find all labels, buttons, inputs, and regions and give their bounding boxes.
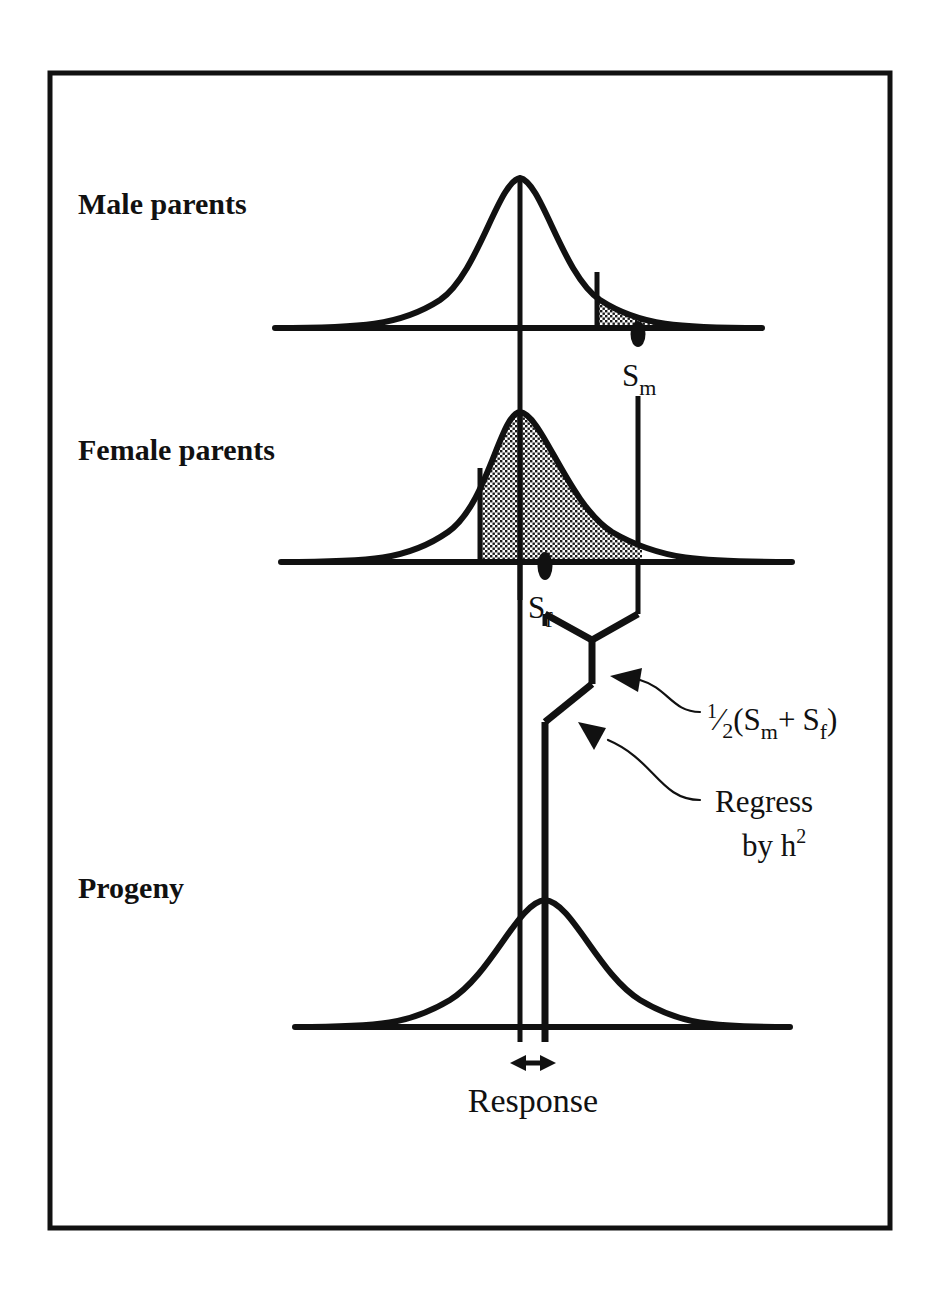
progeny-label: Progeny xyxy=(78,871,184,904)
response-arrow xyxy=(510,1055,556,1071)
sf-marker xyxy=(538,552,553,580)
midparent-formula: 1⁄2(Sm+Sf) xyxy=(707,700,837,744)
annotation-midparent: 1⁄2(Sm+Sf) xyxy=(707,700,837,744)
female-parents-panel: Sf Female parents xyxy=(78,405,792,632)
male-parents-label: Male parents xyxy=(78,187,247,220)
regress-leader-line xyxy=(608,740,700,800)
figure-border xyxy=(50,73,890,1228)
regress-arrowhead xyxy=(578,722,606,750)
sm-label: Sm xyxy=(622,358,656,400)
female-parents-label: Female parents xyxy=(78,433,275,466)
regress-line-1: Regress xyxy=(715,784,813,819)
sm-marker xyxy=(631,321,646,347)
male-selection-shading xyxy=(597,170,767,330)
regression-slant xyxy=(545,684,592,722)
figure-canvas: Sm Male parents Sf xyxy=(0,0,943,1290)
regress-line-2: by h2 xyxy=(742,825,806,863)
midparent-leader-line xyxy=(640,680,700,712)
response-arrow-left-head xyxy=(510,1055,526,1071)
progeny-panel: Response Progeny xyxy=(78,871,790,1119)
annotation-regress: Regress by h2 xyxy=(715,784,813,863)
annotation-leaders xyxy=(578,668,700,800)
midparent-arrowhead xyxy=(610,668,642,692)
response-label: Response xyxy=(468,1082,598,1119)
response-arrow-right-head xyxy=(540,1055,556,1071)
midparent-v-join xyxy=(545,614,638,640)
figure-root: Sm Male parents Sf xyxy=(0,0,943,1290)
sf-label: Sf xyxy=(528,590,553,632)
